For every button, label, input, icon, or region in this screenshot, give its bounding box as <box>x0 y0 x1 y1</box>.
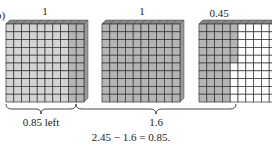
block-2-label: 1 <box>139 5 145 17</box>
block-1-label: 1 <box>42 5 48 17</box>
equation: 2.45 − 1.6 = 0.85. <box>92 131 171 143</box>
hundred-block-2 <box>102 20 184 102</box>
figure-marker: b) <box>0 9 6 22</box>
brace-0-85-left <box>6 104 76 114</box>
hundred-block-1 <box>6 20 88 102</box>
decimal-subtraction-diagram: b) 1 1 0.45 0.85 left 1.6 2.45 − 1.6 = 0… <box>0 0 272 145</box>
hundred-block-3 <box>199 20 272 102</box>
brace-1-6 <box>76 104 236 114</box>
brace-label-0-85-left: 0.85 left <box>23 116 60 128</box>
block-3-label: 0.45 <box>209 7 229 19</box>
brace-label-1-6: 1.6 <box>149 116 163 128</box>
